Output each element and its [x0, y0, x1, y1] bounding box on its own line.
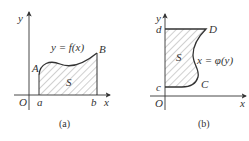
- region-label-a: S: [66, 76, 72, 88]
- origin-label-b: O: [155, 97, 163, 109]
- caption-b: (b): [198, 118, 210, 130]
- panel-a: y O a b x A B y = f(x) S (a): [14, 12, 110, 130]
- curve-end-label-b: B: [99, 43, 106, 55]
- region-label-b: S: [176, 51, 182, 63]
- diagram-canvas: y O a b x A B y = f(x) S (a) y d c O x D…: [0, 0, 249, 141]
- y-axis-label-a: y: [17, 12, 23, 24]
- function-label-b: x = φ(y): [196, 54, 233, 67]
- x-axis-label-a: x: [103, 96, 109, 108]
- curve-start-label-c: C: [201, 78, 209, 90]
- point-c-label: c: [156, 81, 161, 93]
- curve-end-label-d: D: [208, 23, 217, 35]
- x-axis-label-b: x: [239, 97, 245, 109]
- origin-label-a: O: [19, 96, 27, 108]
- function-label-a: y = f(x): [50, 41, 84, 54]
- curve-start-label-a: A: [31, 62, 39, 74]
- point-a-label: a: [37, 96, 43, 108]
- point-d-label: d: [156, 23, 162, 35]
- caption-a: (a): [59, 118, 70, 130]
- panel-b: y d c O x D C x = φ(y) S (b): [150, 12, 246, 130]
- point-b-label: b: [91, 96, 97, 108]
